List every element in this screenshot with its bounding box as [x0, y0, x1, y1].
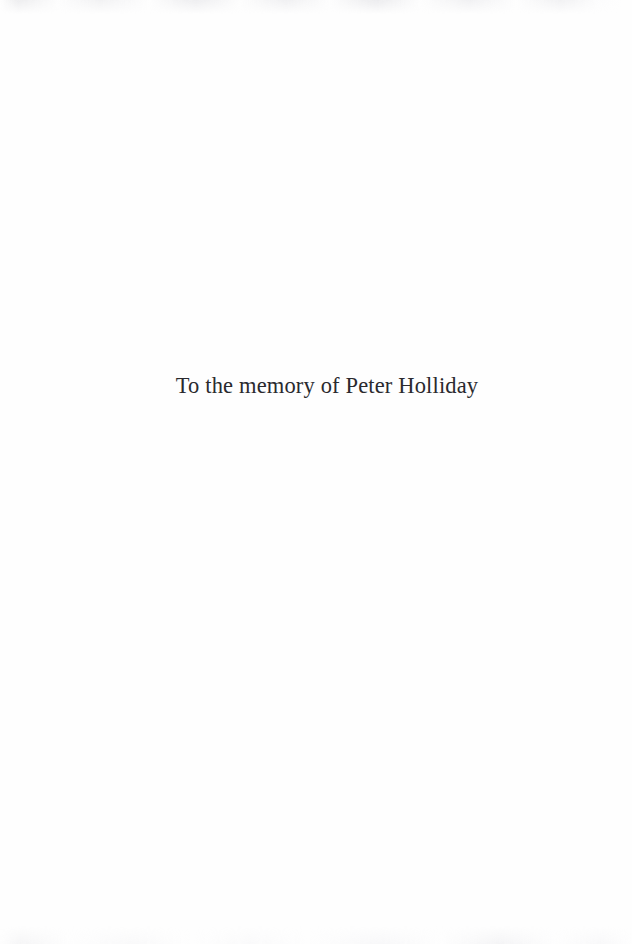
dedication-lead-in: To the memory of — [176, 373, 340, 398]
dedication-text: To the memory ofPeter Holliday — [0, 372, 632, 400]
dedication-page: To the memory ofPeter Holliday — [0, 0, 632, 944]
scan-artifact-top-edge — [0, 0, 632, 14]
scan-artifact-bottom-edge — [0, 926, 632, 944]
dedication-honoree-name: Peter Holliday — [346, 373, 479, 398]
